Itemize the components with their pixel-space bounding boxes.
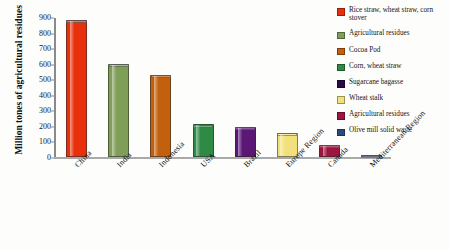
bar[interactable]	[150, 75, 171, 157]
legend-label: Agricultural residues	[349, 29, 409, 37]
legend-swatch-icon	[337, 48, 345, 56]
y-axis-tick-label: 300	[25, 107, 51, 115]
y-axis-tick-mark	[51, 111, 55, 112]
legend-label: Sugarcane bagasse	[349, 78, 403, 86]
bar-slot	[224, 18, 266, 157]
legend-swatch-icon	[337, 112, 345, 120]
legend-label: Agricultural residues	[349, 110, 409, 118]
bar-slot	[140, 18, 182, 157]
y-axis-tick-label: 800	[25, 30, 51, 38]
legend-label: Corn, wheat straw	[349, 62, 402, 70]
y-axis-tick-mark	[51, 95, 55, 96]
bar[interactable]	[66, 20, 87, 157]
y-axis-title: Million tones of agricultural residues	[14, 0, 24, 160]
y-axis-tick-label: 0	[25, 154, 51, 162]
legend-swatch-icon	[337, 8, 345, 16]
y-axis-tick-mark	[51, 158, 55, 159]
bar[interactable]	[108, 64, 129, 157]
legend-swatch-icon	[337, 32, 345, 40]
y-axis-tick-mark	[51, 142, 55, 143]
bar-slot	[98, 18, 140, 157]
y-axis-tick-label: 100	[25, 138, 51, 146]
legend-swatch-icon	[337, 80, 345, 88]
bar-slot	[182, 18, 224, 157]
legend-label: Rice straw, wheat straw, corn stover	[349, 6, 450, 23]
y-axis-tick-label: 900	[25, 14, 51, 22]
y-axis-tick-label: 600	[25, 61, 51, 69]
legend-item[interactable]: Wheat stalk	[337, 94, 450, 104]
legend-label: Olive mill solid waste	[349, 126, 412, 134]
legend-swatch-icon	[337, 96, 345, 104]
legend-item[interactable]: Cocoa Pod	[337, 46, 450, 56]
y-axis-tick-mark	[51, 33, 55, 34]
legend-item[interactable]: Corn, wheat straw	[337, 62, 450, 72]
legend-item[interactable]: Rice straw, wheat straw, corn stover	[337, 6, 450, 23]
legend-swatch-icon	[337, 129, 345, 137]
bar-slot	[56, 18, 98, 157]
y-axis-tick-mark	[51, 64, 55, 65]
bar-chart: Million tones of agricultural residues 9…	[0, 0, 450, 250]
legend-item[interactable]: Olive mill solid waste	[337, 126, 450, 136]
y-axis-tick-label: 400	[25, 92, 51, 100]
chart-legend: Rice straw, wheat straw, corn stoverAgri…	[337, 6, 450, 143]
y-axis-tick-mark	[51, 126, 55, 127]
legend-swatch-icon	[337, 64, 345, 72]
legend-item[interactable]: Agricultural residues	[337, 29, 450, 39]
bar-slot	[266, 18, 308, 157]
y-axis-tick-label: 200	[25, 123, 51, 131]
legend-label: Wheat stalk	[349, 94, 383, 102]
legend-item[interactable]: Agricultural residues	[337, 110, 450, 120]
legend-item[interactable]: Sugarcane bagasse	[337, 78, 450, 88]
y-axis-tick-mark	[51, 80, 55, 81]
legend-label: Cocoa Pod	[349, 46, 380, 54]
y-axis-tick-label: 700	[25, 45, 51, 53]
y-axis-tick-mark	[51, 18, 55, 19]
y-axis-tick-mark	[51, 49, 55, 50]
y-axis-tick-label: 500	[25, 76, 51, 84]
